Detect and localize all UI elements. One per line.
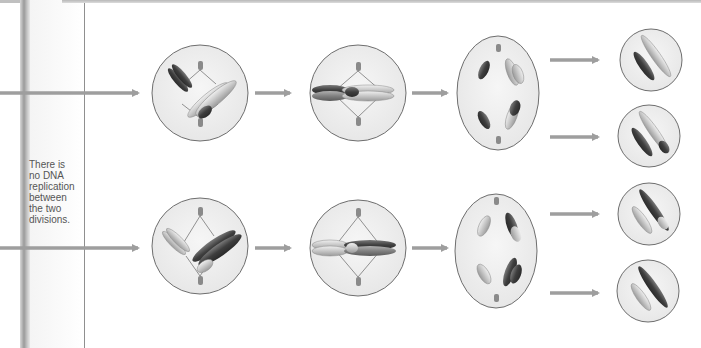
daughter-cell-4 [617,260,679,322]
cell-metaphase-ii-bottom [310,200,406,296]
cell-prophase-ii-bottom [152,198,248,294]
cell-anaphase-ii-top [457,36,539,150]
daughter-cell-3 [618,183,680,245]
cell-metaphase-ii-top [310,45,406,141]
meiosis-ii-diagram [0,0,701,348]
daughter-cell-2 [618,105,680,167]
top-row [0,29,682,167]
daughter-cell-1 [620,29,682,91]
cell-prophase-ii-top [152,45,248,141]
bottom-row [0,183,680,322]
cell-anaphase-ii-bottom [455,194,537,308]
